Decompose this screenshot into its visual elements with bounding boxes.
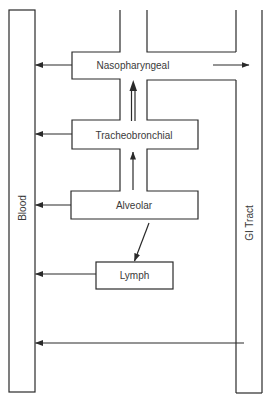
alveolar-label: Alveolar: [116, 200, 153, 211]
blood-label: Blood: [17, 195, 28, 221]
tracheobronchial-label: Tracheobronchial: [96, 130, 173, 141]
lymph-label: Lymph: [120, 270, 150, 281]
gi-tract-label: GI Tract: [244, 205, 255, 241]
lymph-compartment: Lymph: [96, 262, 173, 289]
arrow-alveolar-to-lymph: [135, 223, 150, 261]
gi-tract-compartment: GI Tract: [236, 10, 262, 393]
nasopharyngeal-label: Nasopharyngeal: [97, 60, 170, 71]
blood-compartment: Blood: [9, 10, 35, 392]
airway-outline: [71, 10, 236, 219]
respiratory-compartment-diagram: Blood GI Tract Nasopharyngeal Tracheobro…: [0, 0, 271, 398]
arrow-tracheobronchial-to-nasopharyngeal: [130, 80, 138, 121]
